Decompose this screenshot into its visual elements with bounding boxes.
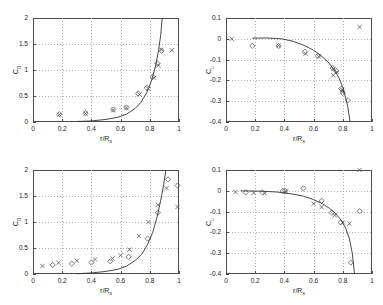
x-tick-label: 0.2 — [58, 126, 67, 133]
cross-marker — [137, 92, 141, 96]
diamond-marker — [159, 48, 164, 53]
diamond-marker — [175, 183, 180, 188]
y-axis-label: CD — [12, 58, 21, 82]
cross-marker — [320, 205, 324, 209]
x-axis-label: r/Rs — [100, 135, 112, 144]
y-axis-label: CD — [12, 210, 21, 234]
cross-marker — [119, 253, 123, 257]
cross-marker-group — [40, 186, 179, 268]
y-tick-mark — [33, 122, 36, 123]
x-tick-label: 0.8 — [338, 278, 347, 285]
x-tick-label: 0 — [224, 126, 228, 133]
cross-marker — [312, 202, 316, 206]
diamond-marker — [301, 186, 306, 191]
y-tick-label: 0.1 — [212, 167, 221, 174]
y-tick-label: 1 — [24, 219, 28, 226]
x-axis-label: r/Rs — [293, 135, 305, 144]
x-tick-label: 0.2 — [58, 278, 67, 285]
x-tick-label: 0.8 — [338, 126, 347, 133]
diamond-marker — [357, 209, 362, 214]
y-tick-label: 0.5 — [19, 245, 28, 252]
y-tick-label: -0.3 — [210, 250, 221, 257]
cross-marker — [164, 186, 168, 190]
x-tick-label: 0.6 — [309, 126, 318, 133]
x-tick-label: 1 — [370, 278, 374, 285]
data-layer-bottom-right — [226, 170, 372, 274]
diamond-marker — [302, 49, 307, 54]
y-tick-label: -0.3 — [210, 98, 221, 105]
x-tick-label: 0.2 — [251, 126, 260, 133]
y-tick-mark — [33, 274, 36, 275]
x-tick-mark — [179, 119, 180, 122]
x-tick-label: 0.8 — [145, 126, 154, 133]
cross-marker — [40, 264, 44, 268]
subplot-bottom-right: 00.20.40.60.81-0.4-0.3-0.2-0.100.1r/RsCL — [226, 170, 372, 274]
cross-marker — [127, 247, 131, 251]
cross-marker — [175, 205, 179, 209]
diamond-marker — [250, 43, 255, 48]
cross-marker — [230, 37, 234, 41]
y-tick-label: 0 — [24, 119, 28, 126]
cross-marker — [276, 44, 280, 48]
y-tick-label: 1.5 — [19, 41, 28, 48]
cross-marker — [146, 220, 150, 224]
fit-curve — [77, 18, 162, 121]
y-axis-label: CL — [205, 58, 214, 82]
x-tick-mark — [372, 271, 373, 274]
y-tick-mark — [226, 274, 229, 275]
diamond-marker-group — [50, 177, 180, 268]
y-tick-label: 0.1 — [212, 15, 221, 22]
x-tick-label: 0.4 — [280, 278, 289, 285]
cross-marker — [57, 113, 61, 117]
y-tick-label: -0.4 — [210, 119, 221, 126]
cross-marker — [110, 256, 114, 260]
x-tick-label: 0 — [31, 278, 35, 285]
y-axis-label: CL — [205, 210, 214, 234]
subplot-top-right: 00.20.40.60.81-0.4-0.3-0.2-0.100.1r/RsCL — [226, 18, 372, 122]
y-tick-label: 0 — [217, 36, 221, 43]
diamond-marker — [50, 262, 55, 267]
cross-marker — [170, 48, 174, 52]
cross-marker — [111, 108, 115, 112]
x-tick-label: 1 — [177, 278, 181, 285]
x-tick-label: 0.8 — [145, 278, 154, 285]
x-tick-label: 0.2 — [251, 278, 260, 285]
cross-marker-group — [230, 25, 362, 94]
diamond-marker — [165, 177, 170, 182]
y-tick-label: 1.5 — [19, 193, 28, 200]
data-layer-top-left — [33, 18, 179, 122]
y-tick-label: 2 — [24, 15, 28, 22]
x-tick-label: 1 — [370, 126, 374, 133]
data-layer-top-right — [226, 18, 372, 122]
cross-marker-group — [233, 168, 361, 226]
x-axis-label: r/Rs — [293, 287, 305, 296]
fit-curve — [252, 38, 350, 122]
y-tick-mark — [226, 122, 229, 123]
x-tick-label: 1 — [177, 126, 181, 133]
cross-marker — [75, 259, 79, 263]
x-tick-label: 0.4 — [87, 278, 96, 285]
cross-marker — [124, 106, 128, 110]
data-layer-bottom-left — [33, 170, 179, 274]
x-tick-mark — [179, 271, 180, 274]
x-axis-label: r/Rs — [100, 287, 112, 296]
x-tick-label: 0.6 — [116, 278, 125, 285]
diamond-marker — [126, 254, 131, 259]
x-tick-label: 0.6 — [116, 126, 125, 133]
y-tick-label: 0.5 — [19, 93, 28, 100]
cross-marker — [347, 222, 351, 226]
x-tick-mark — [372, 119, 373, 122]
x-tick-label: 0.4 — [280, 126, 289, 133]
fit-curve — [77, 170, 166, 274]
cross-marker — [56, 261, 60, 265]
diamond-marker-group — [57, 48, 164, 117]
y-tick-label: 0 — [217, 188, 221, 195]
cross-marker — [357, 25, 361, 29]
cross-marker — [357, 168, 361, 172]
cross-marker — [233, 190, 237, 194]
y-tick-label: -0.4 — [210, 271, 221, 278]
fit-curve — [241, 191, 355, 274]
cross-marker — [137, 234, 141, 238]
x-tick-label: 0 — [224, 278, 228, 285]
y-tick-label: 1 — [24, 67, 28, 74]
